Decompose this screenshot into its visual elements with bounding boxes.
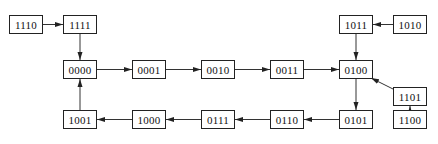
state-node-1010: 1010 — [393, 15, 427, 34]
state-node-1000: 1000 — [132, 110, 166, 129]
state-node-0100: 0100 — [339, 60, 373, 79]
state-node-0011: 0011 — [270, 60, 304, 79]
state-node-1001: 1001 — [63, 110, 97, 129]
state-node-1111: 1111 — [63, 15, 97, 34]
state-node-0111: 0111 — [201, 110, 235, 129]
state-node-0000: 0000 — [63, 60, 97, 79]
state-node-1101: 1101 — [393, 87, 427, 106]
state-node-1110: 1110 — [9, 15, 43, 34]
state-node-0101: 0101 — [339, 110, 373, 129]
state-node-0110: 0110 — [270, 110, 304, 129]
state-node-1011: 1011 — [339, 15, 373, 34]
edge-1101-to-0100 — [371, 78, 393, 89]
state-node-1100: 1100 — [393, 110, 427, 129]
state-node-0010: 0010 — [201, 60, 235, 79]
state-node-0001: 0001 — [132, 60, 166, 79]
